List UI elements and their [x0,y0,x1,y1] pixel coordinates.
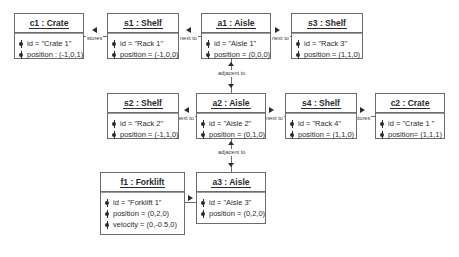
attribute-text: velocity = (0,-0.5,0) [113,220,177,230]
object-title-f1: f1 : Forklift [101,173,184,192]
attribute-text: id = "Aisle 3" [209,198,251,208]
attribute-bullet-icon [201,212,206,217]
object-box-c1[interactable]: c1 : Crate id = "Crate 1" position : (-1… [14,13,84,59]
object-title-s4: s4 : Shelf [286,94,356,113]
attribute-row: position = (1,1,0) [290,130,356,140]
object-attributes-a3: id = "Aisle 3" position = (0,2,0) [197,195,265,223]
attribute-text: position = (1,1,0) [304,50,360,60]
attribute-bullet-icon [105,201,110,206]
attribute-text: position : (-1,0,1) [27,50,83,60]
attribute-row: id = "Forklift 1" [105,198,184,208]
object-title-s2: s2 : Shelf [108,94,178,113]
object-box-c2[interactable]: c2 : Crate id = "Crate 1 " position= (1,… [375,93,445,139]
attribute-text: position = (-1,1,0) [120,130,179,140]
attribute-row: position = (1,1,0) [296,50,362,60]
attribute-bullet-icon [296,53,301,58]
object-title-a3: a3 : Aisle [197,173,265,192]
attribute-row: position = (0,2,0) [201,209,265,219]
link-label-a1-s3: next to [271,35,290,42]
attribute-bullet-icon [201,122,206,127]
attribute-bullet-icon [290,133,295,138]
object-box-a3[interactable]: a3 : Aisle id = "Aisle 3" position = (0,… [196,172,266,224]
arrowhead-right-f1-a3 [188,195,193,201]
link-label-a1-a2: adjacent to [217,70,246,77]
attribute-row: id = "Rack 4" [290,119,356,129]
attribute-text: id = "Rack 2" [120,119,163,129]
attribute-row: id = "Rack 1" [112,39,178,49]
attribute-text: id = "Rack 3" [304,39,347,49]
attribute-row: id = "Rack 2" [112,119,178,129]
attribute-bullet-icon [206,53,211,58]
attribute-row: position= (1,1,1) [380,130,444,140]
attribute-bullet-icon [112,122,117,127]
link-label-c1-s1: stores [86,35,103,42]
object-attributes-a2: id = "Aisle 2" position = (0,1,0) [197,116,265,144]
attribute-text: position = (0,1,0) [209,130,265,140]
attribute-text: position = (0,2,0) [113,209,169,219]
arrowhead-right-s4-c2 [360,107,365,113]
object-box-s4[interactable]: s4 : Shelf id = "Rack 4" position = (1,1… [285,93,357,139]
object-box-a2[interactable]: a2 : Aisle id = "Aisle 2" position = (0,… [196,93,266,139]
attribute-text: position = (0,2,0) [209,209,265,219]
attribute-row: position = (-1,0,0) [112,50,178,60]
attribute-text: position = (0,0,0) [214,50,270,60]
object-title-c2: c2 : Crate [376,94,444,113]
attribute-text: position= (1,1,1) [388,130,442,140]
attribute-row: position = (-1,1,0) [112,130,178,140]
attribute-text: id = "Crate 1 " [388,119,434,129]
arrowhead-left-s1-a1 [186,27,191,33]
attribute-bullet-icon [105,223,110,228]
attribute-bullet-icon [105,212,110,217]
object-box-a1[interactable]: a1 : Aisle id = "Aisle 1" position = (0,… [201,13,271,59]
attribute-row: position : (-1,0,1) [19,50,83,60]
attribute-bullet-icon [380,122,385,127]
attribute-text: position = (-1,0,0) [120,50,179,60]
attribute-row: id = "Crate 1 " [380,119,444,129]
link-label-a2-a3: adjacent to [217,149,246,156]
arrowhead-left-c1-s1 [92,27,97,33]
attribute-row: id = "Rack 3" [296,39,362,49]
attribute-row: position = (0,0,0) [206,50,270,60]
object-box-f1[interactable]: f1 : Forklift id = "Forklift 1" position… [100,172,185,235]
attribute-bullet-icon [19,53,24,58]
arrowhead-right-a2-s4 [269,107,274,113]
link-label-a2-s4: next to [265,115,284,122]
attribute-row: position = (0,1,0) [201,130,265,140]
attribute-row: id = "Crate 1" [19,39,83,49]
attribute-text: id = "Rack 1" [120,39,163,49]
object-title-s1: s1 : Shelf [108,14,178,33]
attribute-bullet-icon [380,133,385,138]
arrowhead-down-a1-a2 [228,84,234,88]
attribute-bullet-icon [112,133,117,138]
object-title-a1: a1 : Aisle [202,14,270,33]
object-attributes-c1: id = "Crate 1" position : (-1,0,1) [15,36,83,64]
attribute-bullet-icon [112,53,117,58]
attribute-bullet-icon [206,42,211,47]
object-box-s1[interactable]: s1 : Shelf id = "Rack 1" position = (-1,… [107,13,179,59]
uml-object-diagram: stores next to next to adjacent to next … [0,0,459,257]
link-label-s1-a1: next to [179,35,198,42]
attribute-row: id = "Aisle 3" [201,198,265,208]
arrowhead-right-a1-s3 [275,27,280,33]
attribute-row: id = "Aisle 1" [206,39,270,49]
attribute-text: id = "Aisle 2" [209,119,251,129]
attribute-text: id = "Rack 4" [298,119,341,129]
arrowhead-down-a2-a3 [228,163,234,167]
arrowhead-left-s2-a2 [184,107,189,113]
attribute-bullet-icon [201,201,206,206]
attribute-bullet-icon [112,42,117,47]
attribute-row: id = "Aisle 2" [201,119,265,129]
object-attributes-c2: id = "Crate 1 " position= (1,1,1) [376,116,444,144]
object-attributes-s2: id = "Rack 2" position = (-1,1,0) [108,116,178,144]
attribute-bullet-icon [201,133,206,138]
attribute-bullet-icon [19,42,24,47]
object-box-s2[interactable]: s2 : Shelf id = "Rack 2" position = (-1,… [107,93,179,139]
object-title-c1: c1 : Crate [15,14,83,33]
object-title-a2: a2 : Aisle [197,94,265,113]
object-attributes-s1: id = "Rack 1" position = (-1,0,0) [108,36,178,64]
attribute-row: position = (0,2,0) [105,209,184,219]
attribute-text: id = "Forklift 1" [113,198,161,208]
attribute-text: id = "Crate 1" [27,39,71,49]
object-box-s3[interactable]: s3 : Shelf id = "Rack 3" position = (1,1… [291,13,363,59]
attribute-text: id = "Aisle 1" [214,39,256,49]
